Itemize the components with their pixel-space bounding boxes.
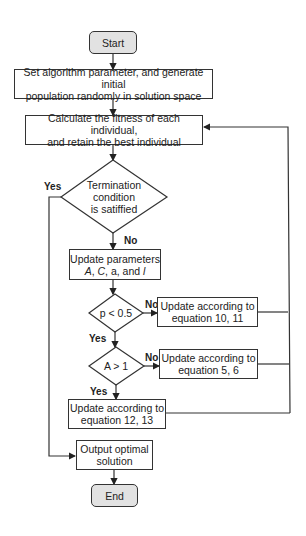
p-condition-text: p < 0.5 (92, 307, 140, 319)
param-a: A (85, 265, 92, 277)
eq-5-6-line1: Update according to (162, 352, 256, 364)
output-line2: solution (96, 455, 132, 467)
no-a-label: No (145, 352, 158, 363)
init-line1: Set algorithm parameter, and generate in… (15, 66, 212, 90)
eq-10-11-line1: Update according to (161, 300, 255, 312)
eq-5-6-line2: equation 5, 6 (178, 364, 239, 376)
termination-line1: Termination (72, 179, 156, 191)
update-params-line1: Update parameters (70, 253, 160, 265)
start-node: Start (89, 31, 137, 54)
output-box: Output optimal solution (76, 440, 153, 470)
sep2: , a, and (105, 265, 143, 277)
eq-10-11-box: Update according to equation 10, 11 (157, 297, 258, 327)
end-node: End (91, 484, 138, 507)
update-params-line2: A, C, a, and l (85, 265, 146, 277)
yes-a-label: Yes (90, 386, 107, 397)
end-label: End (105, 490, 124, 502)
eq-12-13-line2: equation 12, 13 (81, 414, 153, 426)
fitness-line1: Calculate the fitness of each individual… (26, 112, 202, 136)
termination-line2: condition (72, 191, 156, 203)
init-line2: population randomly in solution space (26, 90, 202, 102)
no-termination-label: No (124, 235, 137, 246)
output-line1: Output optimal (80, 443, 148, 455)
init-process-box: Set algorithm parameter, and generate in… (14, 69, 213, 99)
eq-12-13-line1: Update according to (70, 402, 164, 414)
fitness-process-box: Calculate the fitness of each individual… (25, 115, 203, 145)
yes-p-label: Yes (89, 333, 106, 344)
termination-text: Termination condition is satiffied (72, 179, 156, 215)
param-c: C (97, 265, 105, 277)
update-params-box: Update parameters A, C, a, and l (69, 249, 161, 280)
start-label: Start (102, 37, 124, 49)
a-condition-text: A > 1 (92, 360, 140, 372)
eq-5-6-box: Update according to equation 5, 6 (159, 349, 258, 379)
termination-line3: is satiffied (72, 203, 156, 215)
eq-12-13-box: Update according to equation 12, 13 (68, 399, 166, 429)
eq-10-11-line2: equation 10, 11 (172, 312, 244, 324)
param-l: l (143, 265, 145, 277)
yes-termination-label: Yes (44, 181, 61, 192)
fitness-line2: and retain the best individual (47, 136, 181, 148)
